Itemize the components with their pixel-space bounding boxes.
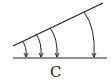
diagram-label: C xyxy=(50,63,61,81)
arc-arrow-4 xyxy=(84,12,94,57)
arc-arrow-1 xyxy=(22,41,26,57)
arc-arrow-3 xyxy=(50,28,57,57)
slanted-line xyxy=(13,3,103,46)
arc-arrow-2 xyxy=(36,34,41,57)
